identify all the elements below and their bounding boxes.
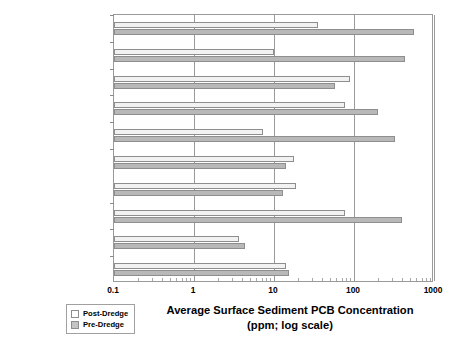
minor-tick [242, 278, 243, 281]
y-tick [110, 256, 114, 257]
y-tick [110, 15, 114, 16]
minor-tick [266, 278, 267, 281]
minor-tick [416, 278, 417, 281]
minor-tick [176, 278, 177, 281]
minor-tick [152, 278, 153, 281]
bar-post-dredge-5 [114, 183, 296, 189]
bar-post-dredge-0 [114, 22, 318, 28]
plot-area [113, 14, 433, 282]
minor-tick [410, 278, 411, 281]
legend-swatch-pre-dredge [71, 321, 79, 329]
minor-tick [430, 278, 431, 281]
bar-post-dredge-1 [114, 49, 274, 55]
minor-tick [232, 278, 233, 281]
minor-tick [250, 278, 251, 281]
bar-pre-dredge-3 [114, 109, 378, 115]
y-tick [110, 69, 114, 70]
x-tick-label-1000: 1000 [403, 285, 458, 295]
minor-tick [182, 278, 183, 281]
minor-tick [346, 278, 347, 281]
minor-tick [298, 278, 299, 281]
legend-label-post-dredge: Post-Dredge [83, 309, 128, 318]
minor-tick [270, 278, 271, 281]
bar-pre-dredge-0 [114, 29, 414, 35]
chart-container: Average Surface Sediment PCB Concentrati… [0, 0, 458, 347]
bar-pre-dredge-1 [114, 56, 405, 62]
x-tick-label-10: 10 [243, 285, 303, 295]
x-tick-label-0.1: 0.1 [83, 285, 143, 295]
bar-post-dredge-8 [114, 263, 286, 269]
y-tick [110, 122, 114, 123]
bar-pre-dredge-4 [114, 136, 395, 142]
minor-tick [422, 278, 423, 281]
minor-tick [138, 278, 139, 281]
legend-item-post-dredge: Post-Dredge [71, 308, 128, 319]
x-axis-title-line1: Average Surface Sediment PCB Concentrati… [130, 303, 450, 318]
y-tick [110, 95, 114, 96]
minor-tick [426, 278, 427, 281]
minor-tick [392, 278, 393, 281]
y-tick [110, 203, 114, 204]
x-axis-title-line2: (ppm; log scale) [130, 318, 450, 333]
minor-tick [350, 278, 351, 281]
bar-post-dredge-6 [114, 210, 345, 216]
bar-pre-dredge-8 [114, 270, 289, 276]
minor-tick [186, 278, 187, 281]
bar-post-dredge-2 [114, 76, 350, 82]
y-tick [110, 42, 114, 43]
minor-tick [162, 278, 163, 281]
minor-tick [218, 278, 219, 281]
legend-label-pre-dredge: Pre-Dredge [83, 320, 124, 329]
minor-tick [336, 278, 337, 281]
minor-tick [330, 278, 331, 281]
minor-tick [170, 278, 171, 281]
bar-pre-dredge-5 [114, 190, 283, 196]
minor-tick [402, 278, 403, 281]
bar-pre-dredge-7 [114, 243, 245, 249]
bar-post-dredge-4 [114, 129, 263, 135]
y-tick [110, 229, 114, 230]
minor-tick [322, 278, 323, 281]
gridline-1000 [434, 15, 435, 281]
minor-tick [342, 278, 343, 281]
minor-tick [312, 278, 313, 281]
minor-tick [378, 278, 379, 281]
bar-pre-dredge-5 [114, 163, 286, 169]
minor-tick [190, 278, 191, 281]
bar-post-dredge-3 [114, 102, 345, 108]
legend-swatch-post-dredge [71, 310, 79, 318]
bar-pre-dredge-6 [114, 217, 402, 223]
minor-tick [256, 278, 257, 281]
x-tick-label-1: 1 [163, 285, 223, 295]
bar-post-dredge-5 [114, 156, 294, 162]
x-tick-label-100: 100 [323, 285, 383, 295]
y-tick [110, 149, 114, 150]
minor-tick [262, 278, 263, 281]
bar-post-dredge-7 [114, 236, 239, 242]
bar-pre-dredge-2 [114, 83, 335, 89]
chart-legend: Post-Dredge Pre-Dredge [66, 304, 135, 334]
legend-item-pre-dredge: Pre-Dredge [71, 319, 128, 330]
x-axis-title: Average Surface Sediment PCB Concentrati… [130, 303, 450, 333]
